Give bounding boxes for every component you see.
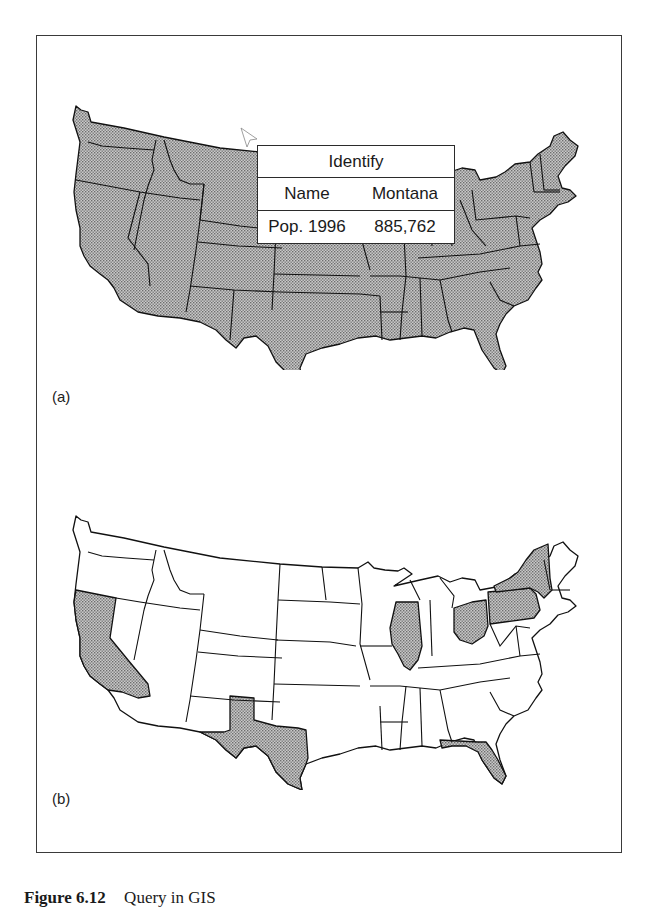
panel-label-a: (a): [52, 388, 70, 405]
state-ohio: [454, 600, 488, 644]
identify-value-population: 885,762: [356, 217, 454, 237]
panel-label-b: (b): [52, 790, 70, 807]
figure-caption-text: Query in GIS: [124, 888, 216, 907]
figure-caption: Figure 6.12 Query in GIS: [24, 888, 216, 908]
us-map-selected-states[interactable]: [40, 460, 610, 790]
figure-number: Figure 6.12: [24, 888, 106, 907]
identify-field-population: Pop. 1996: [258, 217, 356, 237]
identify-value-name: Montana: [356, 184, 454, 204]
identify-title: Identify: [329, 152, 384, 172]
identify-popup: Identify Name Montana Pop. 1996 885,762: [257, 145, 455, 244]
identify-row-name: Name Montana: [258, 177, 454, 210]
us-outline: [73, 516, 578, 790]
state-pennsylvania: [488, 588, 540, 624]
identify-field-name: Name: [258, 184, 356, 204]
identify-row-population: Pop. 1996 885,762: [258, 210, 454, 243]
identify-title-row: Identify: [258, 146, 454, 177]
